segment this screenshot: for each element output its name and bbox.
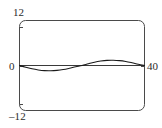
y-axis-zero-label: 0 xyxy=(9,61,15,72)
plot-canvas xyxy=(0,0,162,128)
y-axis-max-label: 12 xyxy=(13,7,24,18)
x-axis-max-label: 40 xyxy=(147,61,158,72)
sine-wave-figure: 12 0 –12 40 xyxy=(0,0,162,128)
y-axis-min-label: –12 xyxy=(9,111,26,122)
